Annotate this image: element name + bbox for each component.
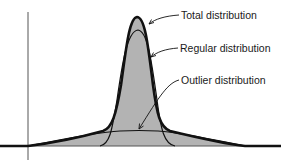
regular-distribution-label: Regular distribution bbox=[180, 42, 271, 54]
total-distribution-label: Total distribution bbox=[181, 9, 257, 21]
regular-leader-arrow bbox=[151, 48, 178, 57]
distribution-diagram: Total distribution Regular distribution … bbox=[0, 0, 291, 165]
total-leader-arrow bbox=[149, 15, 179, 24]
outlier-distribution-label: Outlier distribution bbox=[181, 74, 266, 86]
